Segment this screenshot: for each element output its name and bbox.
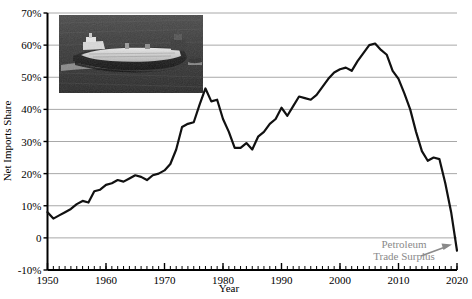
oil-tanker-photo-graphic [59, 15, 203, 93]
x-axis-tick-label: 1990 [271, 274, 294, 286]
oil-tanker-photo [59, 15, 203, 93]
y-axis-tick-label: 70% [21, 7, 41, 19]
y-axis-tick-label: 20% [21, 168, 41, 180]
y-axis-tick-label: 10% [21, 200, 41, 212]
x-axis-tick-label: 2020 [446, 274, 469, 286]
x-axis-tick-label: 1970 [154, 274, 177, 286]
x-axis-tick-label: 2010 [388, 274, 411, 286]
annotation-line-1: Petroleum [381, 238, 427, 250]
y-axis-tick-label: 0 [36, 232, 42, 244]
x-axis-tick-label: 1960 [95, 274, 118, 286]
annotation-line-2: Trade Surplus [373, 250, 435, 262]
chart-figure: 70%60%50%40%30%20%10%0-10% 1950196019701… [0, 0, 472, 299]
y-axis-title: Net Imports Share [1, 101, 13, 182]
y-axis-tick-label: 40% [21, 103, 41, 115]
x-axis-title: Year [219, 282, 240, 294]
y-axis-tick-label: 30% [21, 136, 41, 148]
y-axis-tick-label: 50% [21, 71, 41, 83]
y-axis-tick-label: 60% [21, 39, 41, 51]
x-axis-tick-label: 2000 [329, 274, 352, 286]
y-axis-tick-labels: 70%60%50%40%30%20%10%0-10% [18, 7, 42, 276]
x-axis-tick-label: 1950 [37, 274, 60, 286]
x-axis-tick-labels: 19501960197019801990200020102020 [37, 274, 469, 286]
